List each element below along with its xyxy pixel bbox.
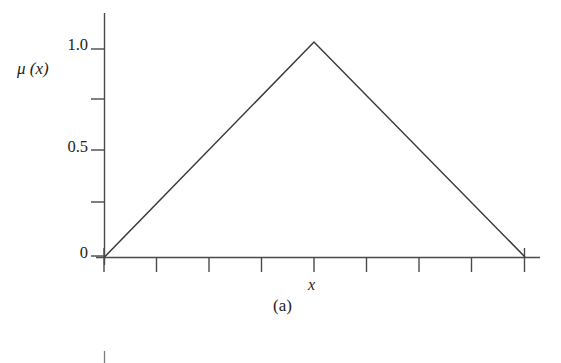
x-axis-ticks xyxy=(104,248,525,272)
membership-function-curve xyxy=(105,42,526,257)
y-axis-tick-label-0p5: 0.5 xyxy=(40,139,88,156)
x-axis-title: x xyxy=(308,277,315,293)
panel-caption: (a) xyxy=(273,297,292,314)
y-axis-ticks xyxy=(91,49,104,256)
figure-panel-a: 1.0 0.5 0 μ (x) x (a) xyxy=(0,0,561,363)
y-axis-title: μ (x) xyxy=(17,60,49,77)
y-axis-tick-label-1p0: 1.0 xyxy=(40,37,88,54)
y-axis-tick-label-0: 0 xyxy=(40,245,88,262)
